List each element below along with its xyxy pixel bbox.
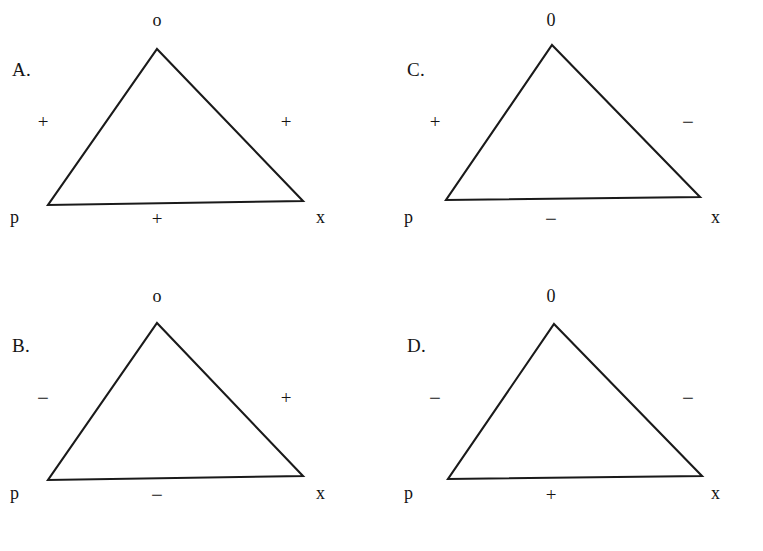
edge-sign-right-c: −	[674, 112, 702, 133]
triangle-outline	[48, 323, 303, 480]
node-label-p-c: p	[404, 208, 434, 226]
triangle-outline	[446, 45, 700, 200]
edge-sign-bottom-d: +	[537, 485, 565, 504]
panel-d: D. 0 − − p + x	[382, 276, 763, 551]
triangle-a	[0, 0, 381, 275]
panel-letter-a: A.	[12, 60, 58, 79]
edge-sign-bottom-c: −	[537, 209, 565, 230]
edge-sign-left-a: +	[29, 112, 57, 131]
edge-sign-bottom-b: −	[143, 485, 171, 506]
triangle-b	[0, 276, 381, 551]
figure-canvas: A. o + + p + x B. o − + p − x C. 0 + − p…	[0, 0, 763, 551]
node-label-p-d: p	[404, 484, 434, 502]
edge-sign-right-b: +	[272, 388, 300, 407]
panel-c: C. 0 + − p − x	[382, 0, 763, 275]
node-label-x-a: x	[295, 208, 325, 226]
node-label-o-b: o	[140, 287, 174, 305]
panel-b: B. o − + p − x	[0, 276, 381, 551]
edge-sign-left-c: +	[421, 112, 449, 131]
node-label-p-b: p	[10, 484, 40, 502]
panel-letter-d: D.	[407, 336, 453, 355]
edge-sign-right-a: +	[272, 112, 300, 131]
panel-letter-b: B.	[12, 336, 58, 355]
node-label-o-c: 0	[534, 11, 568, 29]
node-label-o-d: 0	[534, 287, 568, 305]
edge-sign-left-d: −	[421, 388, 449, 409]
node-label-x-b: x	[295, 484, 325, 502]
panel-a: A. o + + p + x	[0, 0, 381, 275]
triangle-outline	[48, 49, 303, 205]
node-label-x-c: x	[690, 208, 720, 226]
node-label-x-d: x	[690, 484, 720, 502]
edge-sign-bottom-a: +	[143, 209, 171, 228]
edge-sign-left-b: −	[29, 388, 57, 409]
triangle-d	[382, 276, 763, 551]
triangle-outline	[448, 324, 702, 479]
node-label-p-a: p	[10, 208, 40, 226]
panel-letter-c: C.	[407, 60, 453, 79]
node-label-o-a: o	[140, 11, 174, 29]
edge-sign-right-d: −	[674, 388, 702, 409]
triangle-c	[382, 0, 763, 275]
